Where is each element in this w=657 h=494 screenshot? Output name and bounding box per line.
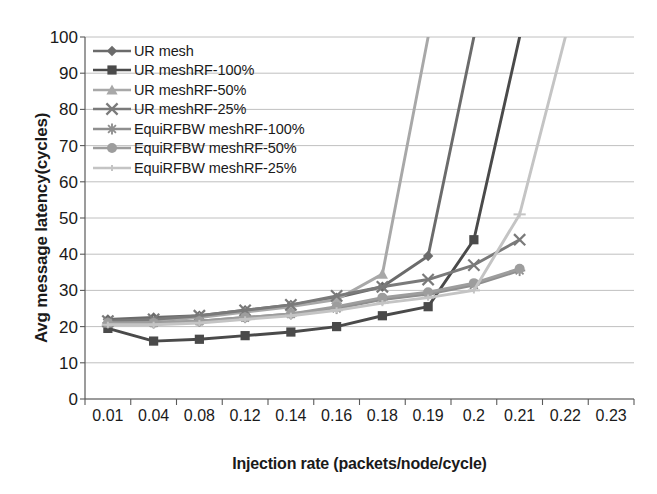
y-axis-tick-label: 70 (26, 138, 78, 155)
legend-item-label: UR meshRF-100% (134, 63, 254, 78)
legend-item-label: UR mesh (134, 44, 194, 59)
x-axis-tick-label: 0.23 (581, 408, 641, 424)
legend-item-label: EquiRFBW meshRF-25% (134, 161, 296, 176)
legend-item-label: EquiRFBW meshRF-50% (134, 141, 296, 156)
x-axis-title: Injection rate (packets/node/cycle) (85, 455, 634, 473)
legend-asterisk-icon (92, 120, 132, 138)
chart-legend: UR meshUR meshRF-100%UR meshRF-50%UR mes… (92, 41, 304, 178)
y-axis-tick-label: 80 (26, 101, 78, 118)
legend-plus-icon (92, 159, 132, 177)
y-axis-tick-label: 60 (26, 174, 78, 191)
y-axis-tick-label: 30 (26, 282, 78, 299)
y-axis-tick-label: 40 (26, 246, 78, 263)
legend-item-label: UR meshRF-25% (134, 102, 246, 117)
legend-item-label: EquiRFBW meshRF-100% (134, 122, 304, 137)
legend-triangle-icon (92, 81, 132, 99)
legend-diamond-icon (92, 42, 132, 60)
legend-item[interactable]: EquiRFBW meshRF-100% (92, 119, 304, 139)
legend-circle-icon (92, 139, 132, 157)
y-axis-tick-label: 0 (26, 391, 78, 408)
y-axis-tick-label: 10 (26, 355, 78, 372)
legend-item[interactable]: UR meshRF-100% (92, 61, 304, 81)
legend-item[interactable]: EquiRFBW meshRF-25% (92, 158, 304, 178)
y-axis-tick-label: 50 (26, 210, 78, 227)
legend-item[interactable]: EquiRFBW meshRF-50% (92, 139, 304, 159)
legend-x-icon (92, 100, 132, 118)
legend-item[interactable]: UR meshRF-25% (92, 100, 304, 120)
chart-container: Avg message latency(cycles) Injection ra… (0, 0, 657, 494)
legend-item-label: UR meshRF-50% (134, 83, 246, 98)
y-axis-tick-label: 90 (26, 65, 78, 82)
y-axis-tick-label: 20 (26, 319, 78, 336)
legend-item[interactable]: UR meshRF-50% (92, 80, 304, 100)
y-axis-tick-label: 100 (26, 29, 78, 46)
legend-item[interactable]: UR mesh (92, 41, 304, 61)
legend-square-icon (92, 61, 132, 79)
